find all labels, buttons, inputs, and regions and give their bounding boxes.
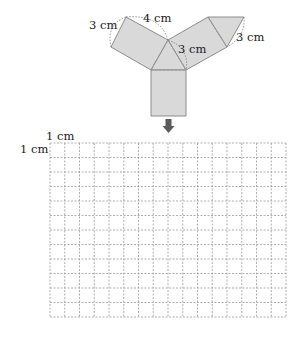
grid-unit-label-horizontal: 1 cm [46, 129, 74, 143]
down-arrow-icon [163, 119, 175, 133]
label-right-arm-3cm: 3 cm [236, 30, 264, 44]
label-triangle-3cm: 3 cm [178, 42, 206, 56]
label-left-arm-3cm: 3 cm [89, 18, 117, 32]
grid-unit-label-vertical: 1 cm [20, 142, 48, 156]
diagram-canvas: 3 cm 4 cm 3 cm 3 cm 1 cm 1 cm [0, 0, 307, 341]
label-left-arm-4cm: 4 cm [143, 11, 171, 25]
triangular-prism-net: 3 cm 4 cm 3 cm 3 cm [89, 11, 264, 116]
square-grid [50, 143, 286, 317]
bottom-rectangle-face [151, 70, 186, 116]
